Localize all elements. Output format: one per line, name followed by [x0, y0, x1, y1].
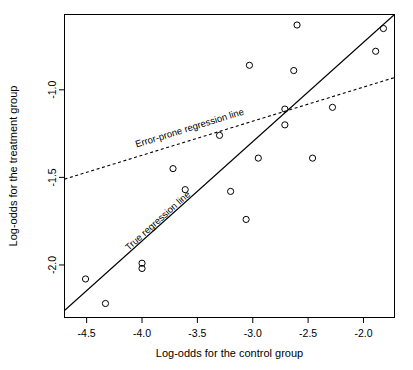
x-axis-ticks: -4.5-4.0-3.5-3.0-2.5-2.0	[78, 318, 373, 339]
x-axis-title: Log-odds for the control group	[156, 347, 303, 359]
true-regression-line	[65, 15, 395, 311]
error-prone-regression-line	[65, 78, 395, 180]
data-point-marker	[294, 22, 300, 28]
x-tick-label: -2.5	[299, 327, 317, 339]
data-point-marker	[216, 132, 222, 138]
data-point-marker	[102, 300, 108, 306]
x-tick-label: -4.0	[133, 327, 151, 339]
true-regression-line-label: True regression line	[123, 188, 193, 252]
data-point-marker	[246, 62, 252, 68]
data-point-marker	[82, 276, 88, 282]
y-tick-label: -1.0	[46, 81, 58, 99]
data-point-marker	[329, 104, 335, 110]
plot-canvas: -4.5-4.0-3.5-3.0-2.5-2.0 -1.0-1.5-2.0 Tr…	[0, 0, 413, 370]
data-point-marker	[170, 166, 176, 172]
data-point-marker	[243, 216, 249, 222]
data-point-marker	[373, 48, 379, 54]
data-point-marker	[291, 67, 297, 73]
plot-frame	[65, 15, 395, 318]
x-tick-label: -4.5	[78, 327, 96, 339]
y-tick-label: -2.0	[46, 256, 58, 274]
y-axis-ticks: -1.0-1.5-2.0	[46, 81, 64, 274]
data-points	[82, 22, 386, 307]
data-point-marker	[228, 188, 234, 194]
regression-line-labels: True regression lineError-prone regressi…	[123, 106, 245, 253]
scatter-plot-figure: -4.5-4.0-3.5-3.0-2.5-2.0 -1.0-1.5-2.0 Tr…	[0, 0, 413, 370]
x-tick-label: -3.0	[244, 327, 262, 339]
y-tick-label: -1.5	[46, 168, 58, 186]
x-tick-label: -3.5	[188, 327, 206, 339]
error-prone-regression-line-label: Error-prone regression line	[134, 106, 245, 150]
regression-lines	[65, 15, 395, 311]
y-axis-title: Log-odds for the treatment group	[7, 86, 19, 247]
data-point-marker	[255, 155, 261, 161]
data-point-marker	[282, 122, 288, 128]
x-tick-label: -2.0	[354, 327, 372, 339]
data-point-marker	[380, 25, 386, 31]
data-point-marker	[309, 155, 315, 161]
